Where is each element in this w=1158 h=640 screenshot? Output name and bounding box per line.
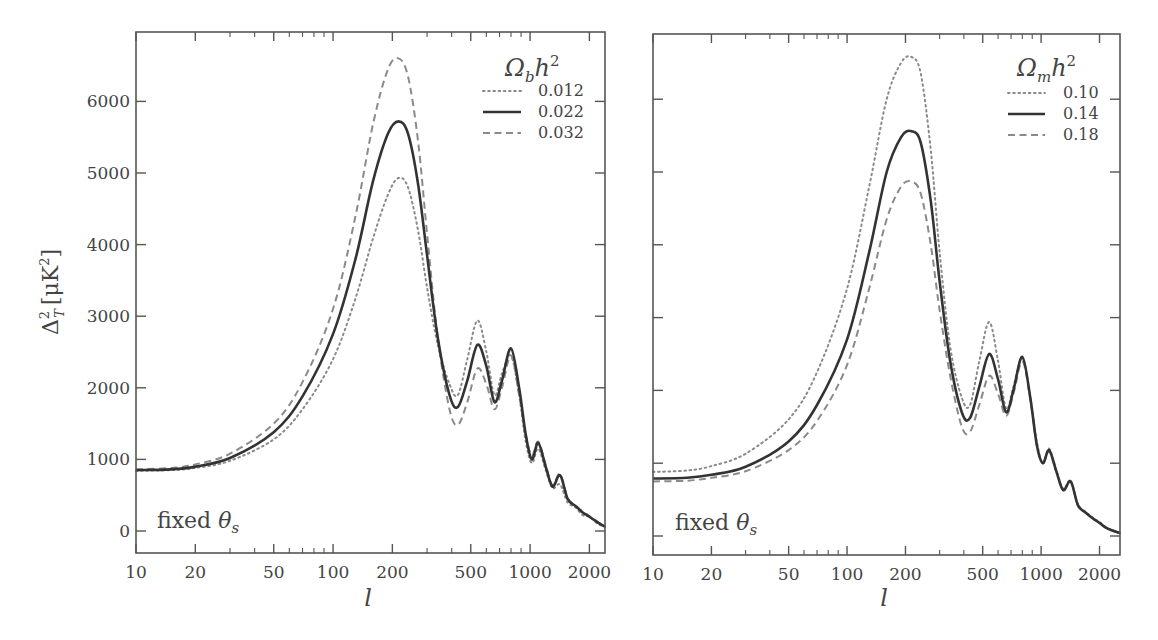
- x-tick-label: 1000: [1019, 564, 1062, 584]
- x-tick-label: 50: [778, 564, 800, 584]
- series-solid-line: [136, 121, 605, 526]
- y-tick-label: 0: [119, 521, 130, 541]
- left-legend-item-3: 0.032: [538, 123, 584, 142]
- right-x-axis-label: l: [880, 584, 888, 612]
- left-plot-frame: [136, 32, 605, 553]
- left-annotation: fixed θs: [157, 508, 239, 537]
- x-tick-label: 20: [701, 564, 723, 584]
- right-legend-title: Ωmh2: [1016, 52, 1076, 86]
- series-dashed-line: [653, 181, 1120, 533]
- right-annotation: fixed θs: [675, 510, 757, 539]
- y-tick-label: 3000: [87, 306, 130, 326]
- right-legend-item-3: 0.18: [1063, 125, 1099, 144]
- x-tick-label: 2000: [1078, 564, 1121, 584]
- x-tick-label: 20: [184, 562, 206, 582]
- right-curves: [653, 56, 1120, 533]
- left-y-axis-label: Δ2T[μK2]: [37, 249, 67, 335]
- series-dotted-line: [136, 178, 605, 527]
- x-tick-label: 2000: [568, 562, 611, 582]
- right-legend-item-2: 0.14: [1063, 104, 1099, 123]
- left-x-axis-label: l: [364, 584, 372, 612]
- left-legend: Ωbh2 0.012 0.022 0.032: [483, 52, 584, 142]
- series-solid-line: [653, 131, 1120, 533]
- x-tick-label: 1000: [508, 562, 551, 582]
- left-legend-item-2: 0.022: [538, 102, 584, 121]
- x-tick-label: 200: [889, 564, 921, 584]
- right-axes: 10205010020050010002000: [642, 34, 1121, 584]
- left-curves: [136, 58, 605, 527]
- x-tick-label: 200: [376, 562, 408, 582]
- right-panel: 10205010020050010002000 l fixed θs Ωmh2 …: [642, 34, 1121, 612]
- x-tick-label: 10: [125, 562, 147, 582]
- x-tick-label: 10: [642, 564, 664, 584]
- figure: 1020501002005001000200001000200030004000…: [0, 0, 1158, 640]
- x-tick-label: 500: [455, 562, 487, 582]
- x-tick-label: 100: [831, 564, 863, 584]
- x-tick-label: 100: [317, 562, 349, 582]
- y-tick-label: 6000: [87, 91, 130, 111]
- left-axes: 1020501002005001000200001000200030004000…: [87, 32, 611, 582]
- left-panel: 1020501002005001000200001000200030004000…: [37, 32, 611, 612]
- y-tick-label: 1000: [87, 449, 130, 469]
- x-tick-label: 50: [263, 562, 285, 582]
- series-dotted-line: [653, 56, 1120, 533]
- right-legend: Ωmh2 0.10 0.14 0.18: [1008, 52, 1099, 144]
- x-tick-label: 500: [966, 564, 998, 584]
- y-tick-label: 2000: [87, 378, 130, 398]
- right-legend-item-1: 0.10: [1063, 83, 1099, 102]
- left-legend-item-1: 0.012: [538, 81, 584, 100]
- y-tick-label: 5000: [87, 163, 130, 183]
- y-tick-label: 4000: [87, 235, 130, 255]
